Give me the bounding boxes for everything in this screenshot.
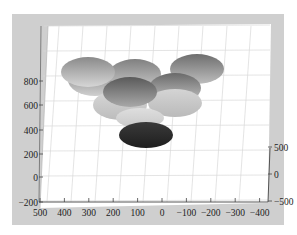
x-tick-label: 0: [160, 208, 165, 218]
y-tick-label: −500: [274, 197, 294, 207]
x-tick-label: 200: [106, 208, 121, 218]
z-axis-line: [39, 26, 41, 202]
3d-chart: 5004003002001000−100−200−300−400 5000−50…: [0, 0, 297, 235]
x-tick-label: −400: [250, 208, 270, 218]
y-axis-ticks: 5000−500: [268, 143, 294, 207]
ellipsoid-8: [103, 77, 157, 107]
x-tick-label: −200: [201, 208, 221, 218]
ellipsoid-4: [61, 57, 115, 87]
z-tick-label: 400: [24, 126, 39, 136]
x-tick-label: 300: [82, 208, 97, 218]
x-tick-label: 100: [130, 208, 145, 218]
ellipsoid-10: [119, 122, 173, 148]
z-tick-label: 0: [33, 173, 38, 183]
x-tick-label: −100: [177, 208, 197, 218]
y-tick-label: 0: [274, 170, 279, 180]
z-tick-label: 200: [24, 150, 39, 160]
z-tick-label: 600: [24, 101, 39, 111]
y-tick-label: 500: [274, 143, 289, 153]
x-tick-label: −300: [225, 208, 245, 218]
x-tick-label: 500: [33, 208, 48, 218]
z-tick-label: 800: [24, 77, 39, 87]
x-tick-label: 400: [57, 208, 72, 218]
z-tick-label: −200: [18, 198, 38, 208]
